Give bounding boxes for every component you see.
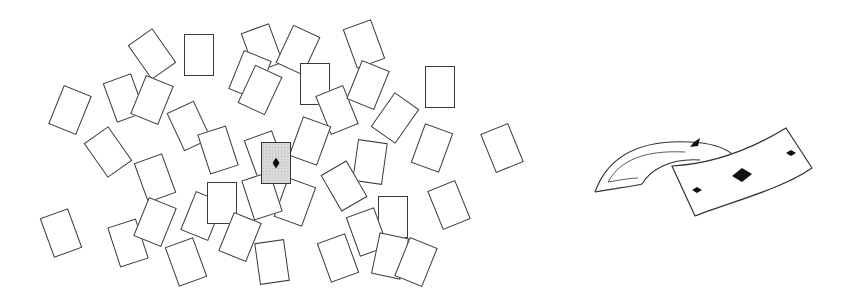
face-down-card <box>346 60 390 110</box>
face-down-card <box>134 153 177 203</box>
face-down-card <box>425 66 455 108</box>
face-down-card <box>197 125 239 174</box>
face-down-card <box>48 85 92 135</box>
face-down-card <box>480 123 524 173</box>
face-down-card <box>427 180 471 230</box>
face-down-card <box>411 123 454 173</box>
diamond-icon <box>273 158 280 169</box>
face-down-card <box>184 34 214 76</box>
face-down-card <box>254 239 290 285</box>
face-down-card <box>165 237 208 287</box>
face-down-card <box>352 139 388 185</box>
face-down-card <box>130 75 174 125</box>
face-down-card <box>128 28 177 80</box>
face-down-card <box>40 208 83 258</box>
curling-ace-of-diamonds <box>590 120 830 230</box>
face-down-card <box>317 233 360 283</box>
highlighted-ace-of-diamonds <box>261 142 291 184</box>
face-down-card <box>84 126 133 178</box>
face-down-card <box>289 116 332 166</box>
face-down-card <box>274 177 317 227</box>
